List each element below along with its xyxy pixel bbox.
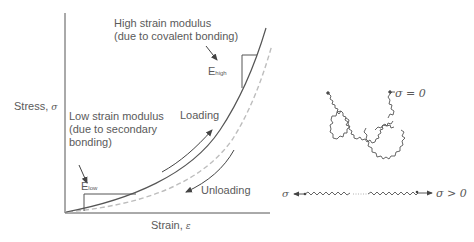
high-modulus-line2: (due to covalent bonding) [114, 30, 238, 43]
low-modulus-line2: (due to secondary [69, 123, 164, 136]
relaxed-chain-label: σ = 0 [395, 87, 426, 100]
x-axis-text: Strain, [151, 219, 183, 231]
e-low-subscript: low [88, 185, 97, 191]
low-modulus-label: Low strain modulus (due to secondary bon… [69, 110, 164, 149]
x-axis-label: Strain, ε [151, 219, 191, 233]
y-axis-text: Stress, [14, 100, 48, 112]
e-high-label: Ehigh [208, 65, 227, 80]
epsilon-symbol: ε [186, 221, 191, 231]
low-modulus-line1: Low strain modulus [69, 110, 164, 123]
y-axis-label: Stress, σ [14, 100, 57, 114]
sigma-symbol: σ [51, 102, 57, 112]
high-modulus-label: High strain modulus (due to covalent bon… [114, 17, 238, 43]
loading-label: Loading [180, 109, 219, 122]
stretched-left-sigma: σ [282, 187, 289, 200]
e-low-label: Elow [81, 180, 97, 195]
low-modulus-line3: bonding) [69, 136, 164, 149]
e-high-subscript: high [215, 70, 226, 76]
stretched-chain-label: σ > 0 [436, 187, 467, 200]
stretched-chain-icon [294, 191, 432, 196]
loading-arrow [162, 130, 212, 172]
unloading-label: Unloading [201, 184, 251, 197]
coiled-chain-icon [327, 91, 405, 159]
high-modulus-pointer [206, 46, 217, 60]
high-modulus-line1: High strain modulus [114, 17, 238, 30]
